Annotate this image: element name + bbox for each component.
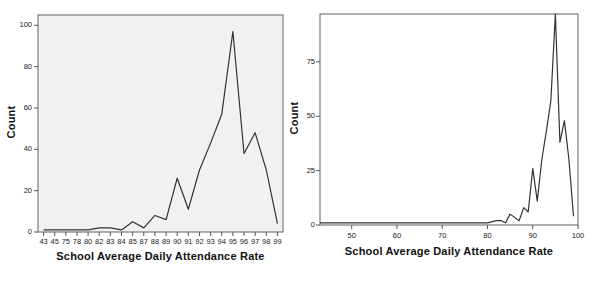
left-x-axis-title: School Average Daily Attendance Rate (38, 250, 283, 262)
right-plot-frame (320, 14, 578, 225)
left-plot-frame (38, 15, 283, 232)
chart-panel-right: Count 0255075 5060708090100 School Avera… (297, 0, 593, 284)
chart-panel-left: Count 020406080100 434575788082838485878… (0, 0, 297, 284)
left-plot-area (0, 0, 297, 260)
figure-container: Count 020406080100 434575788082838485878… (0, 0, 593, 284)
right-plot-area (297, 0, 593, 260)
right-x-axis-title: School Average Daily Attendance Rate (320, 245, 578, 257)
